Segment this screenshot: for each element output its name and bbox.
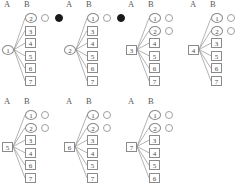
target-node-5[interactable]: 5	[25, 51, 36, 61]
target-node-6[interactable]: 6	[149, 63, 160, 73]
target-node-4[interactable]: 4	[25, 38, 36, 48]
status-dot-empty[interactable]	[41, 14, 49, 22]
column-header-a: A	[4, 0, 10, 9]
source-node-3[interactable]: 3	[126, 45, 137, 55]
status-dot-empty[interactable]	[165, 27, 173, 35]
source-node-1[interactable]: 1	[2, 45, 14, 55]
source-node-6[interactable]: 6	[64, 142, 75, 152]
target-node-7[interactable]: 7	[211, 76, 222, 86]
status-dot-empty[interactable]	[165, 111, 173, 119]
target-node-6[interactable]: 6	[25, 63, 36, 73]
target-node-3[interactable]: 3	[149, 135, 160, 145]
target-node-3[interactable]: 3	[87, 135, 98, 145]
target-node-3[interactable]: 3	[25, 26, 36, 36]
target-node-2[interactable]: 2	[149, 123, 161, 133]
target-node-7[interactable]: 7	[87, 76, 98, 86]
column-header-b: B	[24, 0, 30, 9]
column-header-b: B	[210, 0, 216, 9]
target-node-7[interactable]: 7	[25, 173, 36, 183]
source-node-2[interactable]: 2	[64, 45, 76, 55]
column-header-a: A	[66, 0, 72, 9]
target-node-3[interactable]: 3	[87, 26, 98, 36]
target-node-2[interactable]: 2	[25, 13, 37, 23]
target-node-5[interactable]: 5	[87, 51, 98, 61]
target-node-5[interactable]: 5	[149, 51, 160, 61]
source-node-4[interactable]: 4	[188, 45, 199, 55]
target-node-1[interactable]: 1	[87, 110, 99, 120]
target-node-5[interactable]: 5	[211, 51, 222, 61]
column-header-a: A	[66, 97, 72, 106]
column-header-b: B	[24, 97, 30, 106]
target-node-5[interactable]: 5	[149, 160, 160, 170]
column-header-b: B	[86, 97, 92, 106]
target-node-6[interactable]: 6	[25, 160, 36, 170]
column-header-b: B	[86, 0, 92, 9]
status-dot-empty[interactable]	[227, 14, 235, 22]
target-node-7[interactable]: 7	[87, 173, 98, 183]
target-node-7[interactable]: 7	[25, 76, 36, 86]
target-node-1[interactable]: 1	[25, 110, 37, 120]
target-node-2[interactable]: 2	[25, 123, 37, 133]
target-node-6[interactable]: 6	[87, 63, 98, 73]
status-dot-empty[interactable]	[41, 111, 49, 119]
column-header-b: B	[148, 0, 154, 9]
target-node-2[interactable]: 2	[149, 26, 161, 36]
column-header-b: B	[148, 97, 154, 106]
target-node-2[interactable]: 2	[87, 123, 99, 133]
target-node-3[interactable]: 3	[25, 135, 36, 145]
target-node-1[interactable]: 1	[149, 110, 161, 120]
target-node-6[interactable]: 6	[149, 173, 160, 183]
column-header-a: A	[190, 0, 196, 9]
column-header-a: A	[128, 0, 134, 9]
source-node-5[interactable]: 5	[2, 142, 13, 152]
target-node-2[interactable]: 2	[211, 26, 223, 36]
status-dot-empty[interactable]	[103, 124, 111, 132]
figure-grid: AB1234567AB2134567AB3124567AB4123567AB51…	[0, 0, 252, 195]
target-node-1[interactable]: 1	[87, 13, 99, 23]
target-node-7[interactable]: 7	[149, 76, 160, 86]
status-dot-empty[interactable]	[165, 124, 173, 132]
status-dot-empty[interactable]	[165, 14, 173, 22]
target-node-4[interactable]: 4	[149, 148, 160, 158]
target-node-3[interactable]: 3	[211, 38, 222, 48]
target-node-4[interactable]: 4	[25, 148, 36, 158]
status-dot-empty[interactable]	[103, 14, 111, 22]
target-node-1[interactable]: 1	[149, 13, 161, 23]
target-node-4[interactable]: 4	[87, 148, 98, 158]
source-node-7[interactable]: 7	[126, 142, 137, 152]
target-node-4[interactable]: 4	[149, 38, 160, 48]
column-header-a: A	[128, 97, 134, 106]
target-node-1[interactable]: 1	[211, 13, 223, 23]
status-dot-empty[interactable]	[41, 124, 49, 132]
target-node-6[interactable]: 6	[211, 63, 222, 73]
target-node-5[interactable]: 5	[87, 160, 98, 170]
target-node-4[interactable]: 4	[87, 38, 98, 48]
status-dot-empty[interactable]	[227, 27, 235, 35]
column-header-a: A	[4, 97, 10, 106]
status-dot-empty[interactable]	[103, 111, 111, 119]
